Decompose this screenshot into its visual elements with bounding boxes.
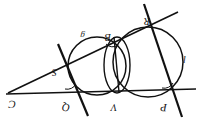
secant-line-c-r xyxy=(8,12,178,93)
point-label-C: C xyxy=(8,99,16,111)
geometry-figure: C S Q B R V P g l xyxy=(0,0,204,128)
point-label-P: P xyxy=(160,102,168,114)
point-label-B: B xyxy=(105,32,111,43)
point-label-Q: Q xyxy=(62,102,70,114)
point-label-V: V xyxy=(109,102,117,113)
point-label-R: R xyxy=(144,16,151,27)
point-label-S: S xyxy=(52,67,57,78)
lines-group xyxy=(6,4,196,117)
left-circle-label: g xyxy=(79,31,85,41)
point-labels-group: C S Q B R V P xyxy=(8,16,168,114)
geometry-canvas: C S Q B R V P g l xyxy=(0,0,204,128)
right-circle-label: l xyxy=(183,54,186,65)
